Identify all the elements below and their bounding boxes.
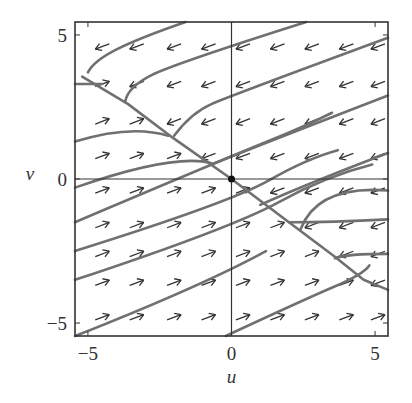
vector-arrow bbox=[167, 313, 181, 320]
trajectory-12 bbox=[226, 265, 370, 336]
vector-arrow bbox=[167, 250, 181, 257]
vector-arrow bbox=[167, 152, 181, 159]
y-axis-label: v bbox=[26, 163, 35, 184]
vector-arrow bbox=[202, 119, 216, 126]
vector-arrow bbox=[130, 250, 144, 257]
vector-arrow bbox=[305, 313, 319, 320]
axis-ticks: −505−505 bbox=[47, 22, 388, 364]
slow-manifold-curve bbox=[82, 77, 388, 290]
y-tick-label: 0 bbox=[58, 169, 68, 190]
vector-arrow bbox=[202, 187, 216, 194]
vector-arrow bbox=[95, 279, 109, 286]
vector-arrow bbox=[236, 279, 250, 286]
vector-arrow bbox=[305, 81, 319, 88]
trajectory-11 bbox=[75, 251, 266, 336]
vector-arrow bbox=[167, 187, 181, 194]
vector-arrow bbox=[95, 44, 109, 51]
vector-arrow bbox=[202, 250, 216, 257]
vector-arrow bbox=[95, 187, 109, 194]
vector-arrow bbox=[270, 279, 284, 286]
equilibrium-point bbox=[228, 176, 235, 183]
vector-arrow bbox=[95, 313, 109, 320]
vector-arrow bbox=[371, 81, 385, 88]
vector-arrow bbox=[130, 152, 144, 159]
vector-arrow bbox=[130, 117, 144, 124]
vector-arrow bbox=[167, 44, 181, 51]
vector-arrow bbox=[130, 221, 144, 228]
vector-arrow bbox=[236, 250, 250, 257]
vector-arrow bbox=[202, 44, 216, 51]
vector-arrow bbox=[236, 119, 250, 126]
vector-arrow bbox=[270, 81, 284, 88]
trajectory-6 bbox=[75, 131, 168, 141]
vector-arrow bbox=[339, 313, 353, 320]
vector-field-arrows bbox=[95, 44, 385, 321]
vector-arrow bbox=[270, 221, 284, 228]
slow-manifold-line bbox=[82, 77, 388, 290]
x-tick-label: 5 bbox=[370, 343, 380, 364]
vector-arrow bbox=[270, 250, 284, 257]
vector-arrow bbox=[339, 119, 353, 126]
vector-arrow bbox=[167, 81, 181, 88]
vector-arrow bbox=[270, 188, 284, 195]
vector-arrow bbox=[202, 313, 216, 320]
phase-portrait-figure: −505−505 u v bbox=[0, 0, 412, 403]
vector-arrow bbox=[270, 44, 284, 51]
vector-arrow bbox=[167, 279, 181, 286]
trajectory-9 bbox=[75, 150, 338, 251]
vector-arrow bbox=[305, 279, 319, 286]
vector-arrow bbox=[130, 44, 144, 51]
vector-arrow bbox=[95, 117, 109, 124]
vector-arrow bbox=[95, 250, 109, 257]
vector-arrow bbox=[371, 313, 385, 320]
x-tick-label: 0 bbox=[227, 343, 237, 364]
vector-arrow bbox=[236, 313, 250, 320]
vector-arrow bbox=[167, 119, 181, 126]
vector-arrow bbox=[95, 152, 109, 159]
vector-arrow bbox=[95, 221, 109, 228]
x-tick-label: −5 bbox=[78, 343, 98, 364]
vector-arrow bbox=[371, 119, 385, 126]
vector-arrow bbox=[202, 221, 216, 228]
x-axis-label: u bbox=[227, 366, 237, 387]
vector-arrow bbox=[339, 81, 353, 88]
y-tick-label: −5 bbox=[47, 313, 67, 334]
vector-arrow bbox=[305, 250, 319, 257]
vector-arrow bbox=[167, 221, 181, 228]
vector-arrow bbox=[339, 44, 353, 51]
vector-arrow bbox=[270, 153, 284, 160]
y-tick-label: 5 bbox=[58, 25, 68, 46]
vector-arrow bbox=[236, 81, 250, 88]
vector-arrow bbox=[130, 187, 144, 194]
vector-arrow bbox=[130, 279, 144, 286]
vector-arrow bbox=[202, 81, 216, 88]
vector-arrow bbox=[339, 222, 353, 229]
vector-arrow bbox=[339, 153, 353, 160]
vector-arrow bbox=[270, 119, 284, 126]
vector-arrow bbox=[371, 222, 385, 229]
vector-arrow bbox=[305, 44, 319, 51]
